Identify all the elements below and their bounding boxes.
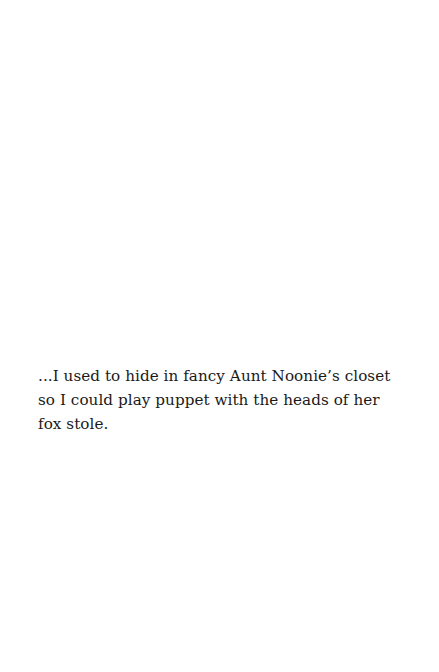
passage-text: ...I used to hide in fancy Aunt Noonie’s… <box>38 364 418 436</box>
passage-line-2: so I could play puppet with the heads of… <box>38 388 418 412</box>
passage-line-3: fox stole. <box>38 412 418 436</box>
passage-line-1: ...I used to hide in fancy Aunt Noonie’s… <box>38 364 418 388</box>
book-page: ...I used to hide in fancy Aunt Noonie’s… <box>0 0 439 672</box>
